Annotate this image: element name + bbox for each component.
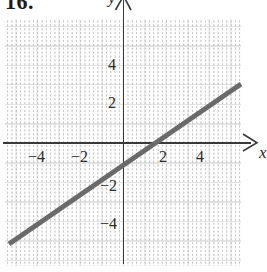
coordinate-plane: y x −4 −2 2 4 4 2 −2 −4 — [0, 0, 267, 272]
line-segment — [9, 84, 241, 244]
plotted-line-graph — [0, 0, 267, 272]
graph-figure: 16. y x −4 −2 2 4 4 2 −2 −4 — [0, 0, 267, 272]
